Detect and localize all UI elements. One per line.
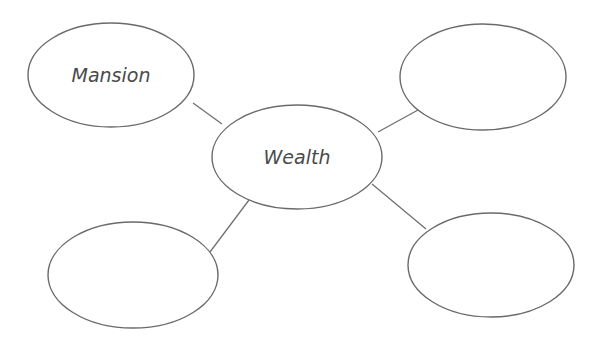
node-top-right[interactable] xyxy=(400,24,566,130)
node-bottom-right[interactable] xyxy=(408,213,574,317)
node-bottom-left-ellipse xyxy=(48,222,218,328)
node-center-label: Wealth xyxy=(264,146,331,168)
connector-mansion-wealth xyxy=(193,103,222,124)
connector-top-right-wealth xyxy=(378,110,418,132)
node-top-left[interactable]: Mansion xyxy=(28,23,194,127)
connector-bottom-right-wealth xyxy=(372,184,426,229)
node-top-right-ellipse xyxy=(400,24,566,130)
node-top-left-label: Mansion xyxy=(72,64,151,86)
node-bottom-left[interactable] xyxy=(48,222,218,328)
node-bottom-right-ellipse xyxy=(408,213,574,317)
connector-bottom-left-wealth xyxy=(210,200,249,252)
node-center[interactable]: Wealth xyxy=(212,105,382,209)
bubble-map-diagram: Mansion Wealth xyxy=(0,0,602,342)
